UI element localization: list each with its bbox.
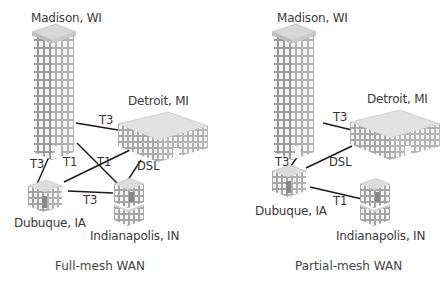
- link-label-madison-detroit: T3: [99, 113, 113, 127]
- site-label-detroit: Detroit, MI: [128, 94, 189, 108]
- partial-mesh-panel: Madison, WI Detroit, MI Dubuque, IA Indi…: [222, 0, 444, 284]
- link-label-madison-dubuque: T3: [275, 155, 289, 169]
- site-label-madison: Madison, WI: [277, 11, 348, 25]
- site-label-dubuque: Dubuque, IA: [255, 204, 327, 218]
- site-label-detroit: Detroit, MI: [367, 92, 428, 106]
- link-label-madison-detroit: T3: [333, 110, 347, 124]
- link-label-madison-dubuque: T3: [30, 157, 44, 171]
- site-label-indianapolis: Indianapolis, IN: [336, 229, 425, 243]
- site-label-indianapolis: Indianapolis, IN: [90, 229, 179, 243]
- site-label-madison: Madison, WI: [31, 11, 102, 25]
- link-label-dubuque-indianapolis: T1: [333, 194, 347, 208]
- caption-partial-mesh: Partial-mesh WAN: [295, 259, 402, 273]
- full-mesh-panel: Madison, WI Detroit, MI Dubuque, IA Indi…: [0, 0, 222, 284]
- site-label-dubuque: Dubuque, IA: [14, 216, 86, 230]
- caption-full-mesh: Full-mesh WAN: [55, 259, 145, 273]
- link-label-detroit-dubuque: T1: [63, 155, 77, 169]
- link-label-dubuque-indianapolis: T3: [83, 193, 97, 207]
- link-label-dubuque-detroit: DSL: [329, 155, 352, 169]
- link-label-madison-indianapolis: T1: [97, 155, 111, 169]
- link-label-detroit-indianapolis: DSL: [137, 159, 160, 173]
